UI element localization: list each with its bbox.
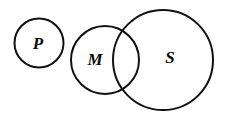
set-label-p: P — [32, 34, 44, 53]
euler-diagram-svg: P M S — [0, 0, 228, 120]
set-label-s: S — [165, 48, 174, 67]
circle-m[interactable] — [71, 26, 139, 94]
circle-s[interactable] — [113, 10, 213, 110]
euler-diagram-canvas: P M S — [0, 0, 228, 120]
set-label-m: M — [86, 50, 103, 69]
